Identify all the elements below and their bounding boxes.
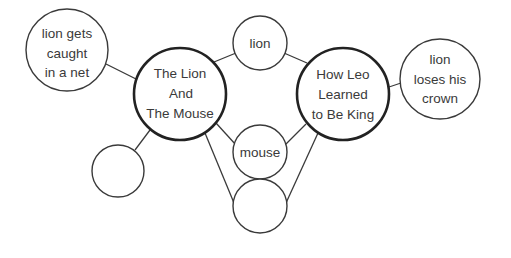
shared-bubble-lion: lion bbox=[233, 16, 287, 70]
connector-left-empty bbox=[135, 130, 150, 150]
double-bubble-map: The Lion And The Mouse How Leo Learned t… bbox=[0, 0, 511, 258]
main-topic-right-line-3: to Be King bbox=[312, 107, 374, 122]
main-topic-right: How Leo Learned to Be King bbox=[297, 48, 389, 140]
right-bubble-loses-crown: lion loses his crown bbox=[400, 39, 480, 119]
right-bubble-line-1: lion bbox=[429, 52, 450, 67]
left-bubble-empty bbox=[92, 145, 144, 197]
shared-bubble-lion-label: lion bbox=[249, 36, 270, 51]
left-bubble-line-2: caught bbox=[47, 46, 88, 61]
connector-left-mouse bbox=[216, 123, 236, 145]
main-topic-right-line-1: How Leo bbox=[316, 67, 369, 82]
shared-bubble-mouse: mouse bbox=[233, 125, 287, 179]
connector-left-caught bbox=[106, 64, 136, 79]
connector-left-lion bbox=[214, 53, 236, 62]
connector-left-bottom bbox=[205, 133, 234, 203]
main-topic-left-line-2: And bbox=[169, 86, 193, 101]
left-bubble-line-3: in a net bbox=[45, 65, 90, 80]
left-bubble-line-1: lion gets bbox=[42, 26, 93, 41]
main-topic-left-line-1: The Lion bbox=[154, 66, 207, 81]
main-topic-left-line-3: The Mouse bbox=[146, 106, 214, 121]
main-topic-right-line-2: Learned bbox=[318, 87, 368, 102]
right-bubble-line-3: crown bbox=[422, 91, 458, 106]
connector-right-mouse bbox=[285, 124, 306, 145]
connector-right-crown bbox=[389, 83, 401, 87]
shared-bubble-mouse-label: mouse bbox=[240, 145, 281, 160]
right-bubble-line-2: loses his bbox=[414, 72, 467, 87]
left-bubble-caught-in-net: lion gets caught in a net bbox=[26, 9, 108, 91]
main-topic-left: The Lion And The Mouse bbox=[134, 48, 226, 140]
connector-right-lion bbox=[284, 53, 307, 63]
shared-bubble-empty bbox=[233, 179, 287, 233]
connector-right-bottom bbox=[286, 133, 318, 203]
